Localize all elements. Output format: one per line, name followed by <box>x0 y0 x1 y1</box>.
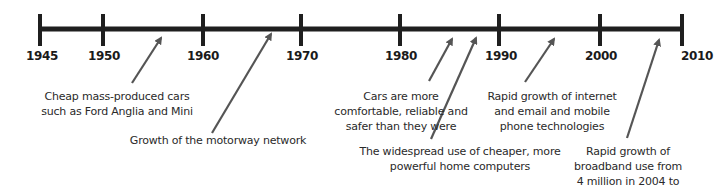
year-label-1945: 1945 <box>26 49 58 63</box>
event-label-home-computers: The widespread use of cheaper, more powe… <box>359 144 560 174</box>
timeline-diagram: 1945 1950 1960 1970 1980 1990 2000 2010 … <box>0 0 721 187</box>
arrow-icon <box>627 40 659 138</box>
year-label-1980: 1980 <box>385 49 417 63</box>
year-label-1950: 1950 <box>88 49 120 63</box>
arrow-icon <box>429 39 452 81</box>
year-label-1970: 1970 <box>286 49 318 63</box>
event-label-internet: Rapid growth of internet and email and m… <box>487 89 616 134</box>
year-label-1960: 1960 <box>187 49 219 63</box>
year-label-1990: 1990 <box>485 49 517 63</box>
arrow-icon <box>212 34 271 133</box>
event-label-cheap-cars: Cheap mass-produced cars such as Ford An… <box>41 89 193 119</box>
arrow-icon <box>132 38 161 83</box>
event-label-motorway: Growth of the motorway network <box>130 133 306 148</box>
year-label-2000: 2000 <box>585 49 617 63</box>
event-label-broadband: Rapid growth of broadband use from 4 mil… <box>574 144 682 187</box>
arrow-icon <box>525 39 554 82</box>
year-label-2010: 2010 <box>681 49 713 63</box>
event-label-comfortable-cars: Cars are more comfortable, reliable and … <box>334 89 467 134</box>
